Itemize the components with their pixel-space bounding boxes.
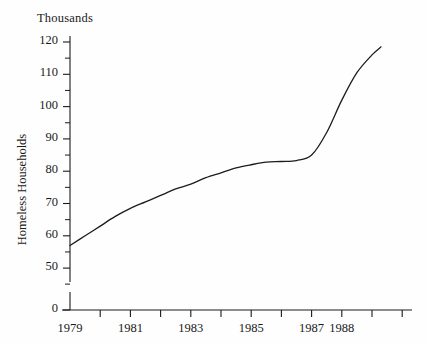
y-tick-label-90: 90 — [24, 130, 58, 145]
x-tick-label-1979: 1979 — [40, 321, 100, 336]
x-tick-label-1981: 1981 — [100, 321, 160, 336]
y-tick-label-110: 110 — [24, 65, 58, 80]
x-tick-label-1985: 1985 — [221, 321, 281, 336]
y-tick-label-70: 70 — [24, 195, 58, 210]
axis-lines — [62, 36, 412, 310]
y-tick-label-60: 60 — [24, 227, 58, 242]
data-series-group — [70, 47, 381, 246]
y-axis-ticks — [63, 42, 70, 310]
y-tick-label-0: 0 — [24, 301, 58, 316]
y-tick-label-50: 50 — [24, 259, 58, 274]
series-line-0 — [70, 47, 381, 246]
line-chart-plot — [0, 0, 428, 343]
y-tick-label-120: 120 — [24, 33, 58, 48]
y-tick-label-80: 80 — [24, 162, 58, 177]
x-tick-label-1988: 1988 — [312, 321, 372, 336]
chart-figure: Thousands Homeless Households 1201101009… — [0, 0, 428, 343]
x-tick-label-1983: 1983 — [161, 321, 221, 336]
x-axis-ticks — [100, 310, 402, 317]
y-tick-label-100: 100 — [24, 98, 58, 113]
